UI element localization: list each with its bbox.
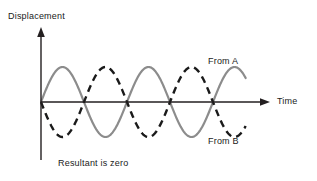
y-axis-arrowhead (37, 27, 45, 37)
y-axis-label: Displacement (8, 11, 65, 22)
figure-caption: Resultant is zero (58, 158, 128, 169)
plot-canvas (0, 0, 317, 181)
series-b-label: From B (208, 136, 239, 147)
series-a-label: From A (208, 56, 238, 67)
x-axis-arrowhead (260, 98, 270, 106)
wave-superposition-figure: Displacement Time From A From B Resultan… (0, 0, 317, 181)
x-axis-label: Time (277, 96, 297, 107)
